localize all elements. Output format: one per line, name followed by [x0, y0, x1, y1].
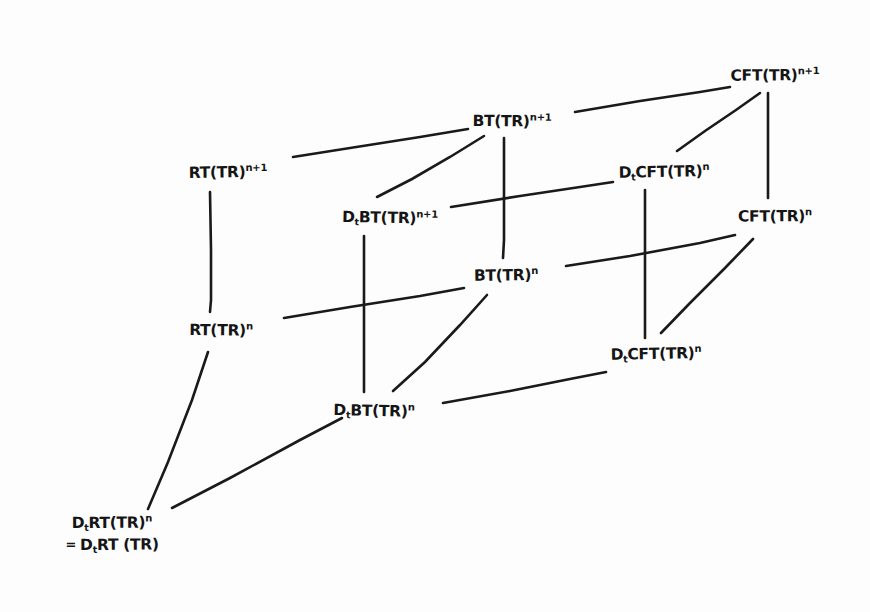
- node-label-line-2: =DtRT (TR): [65, 536, 158, 556]
- edge-bt-n1-to-cft-n1: [575, 87, 730, 112]
- node-label-superscript: n: [246, 321, 253, 332]
- node-label-base: RT(TR): [189, 321, 246, 340]
- node-label-superscript: n: [694, 343, 701, 354]
- node-label-operator-2: D: [80, 536, 93, 554]
- node-label-superscript: n: [531, 265, 538, 276]
- node-label-operator: D: [72, 514, 85, 532]
- edge-dtrt-n-to-dtbt-n: [172, 418, 342, 508]
- node-label-base: RT(TR): [89, 514, 146, 532]
- node-label-base: BT(TR): [474, 266, 532, 285]
- node-dt-cft-tr-n-upper[interactable]: DtCFT(TR)n: [618, 161, 709, 183]
- edge-dtbt-n-to-dtcft-n2: [443, 372, 606, 403]
- node-bt-tr-n[interactable]: BT(TR)n: [474, 265, 538, 285]
- node-label-base: CFT(TR): [635, 162, 702, 181]
- node-label-superscript: n+1: [798, 65, 820, 76]
- node-label-superscript: n: [702, 161, 709, 172]
- node-label-superscript: n: [408, 402, 415, 413]
- edge-dtcft-n-to-cft-n1: [677, 93, 760, 151]
- node-cft-tr-n[interactable]: CFT(TR)n: [738, 206, 812, 226]
- node-label-operator: D: [342, 208, 355, 226]
- node-rt-tr-n-plus-1[interactable]: RT(TR)n+1: [189, 162, 268, 182]
- edge-dtbt-n1-to-dtcft-n: [451, 182, 613, 207]
- edge-dtbt-n-to-bt-n: [393, 295, 487, 391]
- node-label-operator: D: [618, 164, 631, 182]
- edge-bt-n-to-cft-n: [566, 235, 735, 266]
- node-label-line-1: DtRT(TR)n: [72, 514, 153, 533]
- edge-rt-n1-to-rt-n: [210, 192, 211, 312]
- node-label-superscript: n+1: [416, 208, 438, 219]
- node-label-superscript: n: [805, 206, 812, 217]
- node-label-base: BT(TR): [359, 208, 417, 227]
- node-bt-tr-n-plus-1[interactable]: BT(TR)n+1: [472, 111, 551, 131]
- node-dt-rt-tr-n[interactable]: DtRT(TR)n =DtRT (TR): [65, 512, 159, 555]
- node-label-superscript: n+1: [530, 112, 552, 123]
- diagram-canvas: RT(TR)n+1 BT(TR)n+1 CFT(TR)n+1 DtBT(TR)n…: [0, 0, 870, 612]
- node-label-operator: D: [333, 401, 346, 419]
- node-dt-cft-tr-n-lower[interactable]: DtCFT(TR)n: [610, 343, 701, 365]
- equals-sign: =: [65, 537, 76, 552]
- node-label-superscript: n: [145, 513, 152, 524]
- edge-bt-n1-to-bt-n: [503, 138, 504, 258]
- node-dt-bt-tr-n[interactable]: DtBT(TR)n: [333, 400, 414, 422]
- node-label-base: CFT(TR): [738, 207, 805, 225]
- edge-rt-n-to-bt-n: [284, 288, 464, 318]
- node-label-base: CFT(TR): [627, 344, 694, 363]
- node-label-operator: D: [610, 346, 623, 364]
- node-label-superscript: n+1: [245, 162, 267, 173]
- edge-dtrt-n-to-rt-n: [148, 352, 208, 509]
- edge-dtbt-n1-to-bt-n1: [377, 136, 484, 197]
- node-rt-tr-n[interactable]: RT(TR)n: [189, 320, 253, 340]
- node-cft-tr-n-plus-1[interactable]: CFT(TR)n+1: [730, 65, 819, 85]
- node-label-base: CFT(TR): [730, 66, 797, 84]
- node-label-base: BT(TR): [472, 112, 529, 131]
- node-label-base-2: RT (TR): [97, 536, 159, 554]
- node-dt-bt-tr-n-plus-1[interactable]: DtBT(TR)n+1: [342, 207, 438, 229]
- edge-dtcft-n2-to-cft-n: [661, 239, 753, 333]
- node-label-base: RT(TR): [189, 163, 246, 182]
- node-label-base: BT(TR): [350, 401, 408, 420]
- edge-rt-n1-to-bt-n1: [293, 129, 468, 157]
